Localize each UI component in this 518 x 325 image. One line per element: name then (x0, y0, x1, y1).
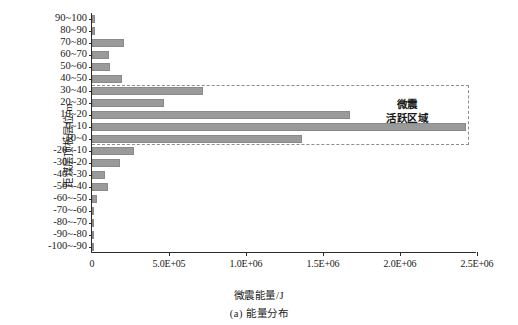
bar-row: -80~-70 (92, 217, 476, 229)
bar (92, 159, 120, 167)
y-axis-tick-label: 80~90 (60, 24, 87, 35)
bar-row: -50~-40 (92, 181, 476, 193)
bar-row: 80~90 (92, 25, 476, 37)
y-axis-tick-label: -100~-90 (48, 240, 87, 251)
y-axis-tick-label: -10~0 (62, 132, 87, 143)
energy-distribution-chart: 距煤层顶板层位/m 90~10080~9070~8060~7050~6040~5… (0, 0, 518, 325)
figure-caption: (a) 能量分布 (0, 305, 518, 320)
annotation-line-1: 微震 (357, 98, 457, 112)
bar-row: -100~-90 (92, 241, 476, 253)
x-axis-tick (477, 252, 478, 256)
y-axis-tick-label: 20~30 (60, 96, 87, 107)
y-axis-tick-label: 50~60 (60, 60, 87, 71)
x-axis-tick (400, 252, 401, 256)
bar (92, 207, 94, 215)
bar (92, 39, 124, 47)
bar (92, 171, 105, 179)
bar (92, 75, 122, 83)
bar-row: -30~-20 (92, 157, 476, 169)
y-axis-tick-label: 60~70 (60, 48, 87, 59)
x-axis-tick-label: 5.0E+05 (153, 258, 186, 269)
bar-row: -40~-30 (92, 169, 476, 181)
y-axis-tick-label: 90~100 (55, 12, 87, 23)
bar-row: 90~100 (92, 13, 476, 25)
bar (92, 219, 94, 227)
x-axis-tick-label: 2.5E+06 (461, 258, 494, 269)
y-axis-tick-label: -60~-50 (53, 192, 87, 203)
bar-row: -20~-10 (92, 145, 476, 157)
bar (92, 231, 94, 239)
x-axis-title: 微震能量/J (0, 287, 518, 302)
y-axis-tick-label: -80~-70 (53, 216, 87, 227)
bar (92, 243, 94, 251)
y-axis-tick-label: -70~-60 (53, 204, 87, 215)
y-axis-tick-label: 30~40 (60, 84, 87, 95)
bar (92, 51, 109, 59)
y-axis-tick-label: -30~-20 (53, 156, 87, 167)
bar-row: -90~-80 (92, 229, 476, 241)
y-axis-tick-label: -20~-10 (53, 144, 87, 155)
bar (92, 15, 95, 23)
y-axis-tick-label: 40~50 (60, 72, 87, 83)
y-axis-tick-label: -50~-40 (53, 180, 87, 191)
y-axis-tick-label: -40~-30 (53, 168, 87, 179)
y-axis-tick-label: 70~80 (60, 36, 87, 47)
x-axis-tick-label: 2.0E+06 (384, 258, 417, 269)
y-axis-tick-label: 0~10 (66, 120, 87, 131)
bar (92, 63, 110, 71)
annotation-line-2: 活跃区域 (357, 112, 457, 126)
plot-area: 90~10080~9070~8060~7050~6040~5030~4020~3… (91, 13, 476, 253)
bar (92, 183, 108, 191)
bar (92, 147, 134, 155)
bar-row: 60~70 (92, 49, 476, 61)
bar-row: -70~-60 (92, 205, 476, 217)
bar-row: -60~-50 (92, 193, 476, 205)
x-axis-tick-label: 0 (90, 258, 95, 269)
x-axis-tick-label: 1.0E+06 (230, 258, 263, 269)
x-axis-tick (169, 252, 170, 256)
x-axis-tick (323, 252, 324, 256)
x-axis-tick (246, 252, 247, 256)
x-axis-tick-label: 1.5E+06 (307, 258, 340, 269)
bar (92, 27, 95, 35)
bar-row: 40~50 (92, 73, 476, 85)
bar (92, 195, 97, 203)
bar-row: 70~80 (92, 37, 476, 49)
y-axis-tick-label: 10~20 (60, 108, 87, 119)
microseismic-active-zone-label: 微震 活跃区域 (357, 98, 457, 126)
bar-row: 50~60 (92, 61, 476, 73)
y-axis-tick-label: -90~-80 (53, 228, 87, 239)
